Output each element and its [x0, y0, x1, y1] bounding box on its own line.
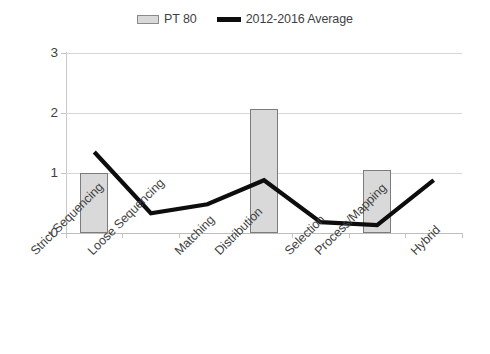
x-axis-labels: Strict Sequencing Loose Sequencing Match…: [0, 0, 490, 354]
x-label-matching: Matching: [172, 213, 217, 258]
chart-figure: PT 80 2012-2016 Average 3 2 1 0: [0, 0, 490, 354]
x-label-distribution: Distribution: [212, 205, 265, 258]
x-label-hybrid: Hybrid: [408, 223, 443, 258]
